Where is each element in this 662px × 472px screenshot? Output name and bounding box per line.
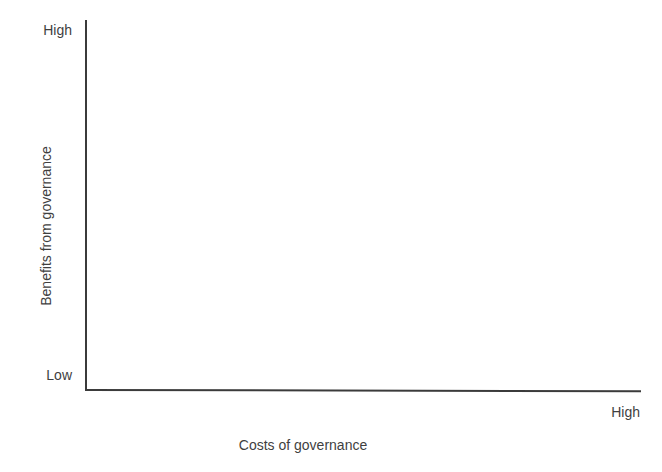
y-axis-title: Benefits from governance bbox=[0, 0, 92, 452]
y-axis-title-text: Benefits from governance bbox=[38, 146, 54, 306]
chart-figure: High Low High Benefits from governance C… bbox=[0, 0, 662, 472]
x-axis-high-label: High bbox=[580, 404, 640, 420]
x-axis-line bbox=[85, 389, 641, 392]
plot-area bbox=[87, 20, 641, 389]
x-axis-title: Costs of governance bbox=[85, 437, 521, 453]
